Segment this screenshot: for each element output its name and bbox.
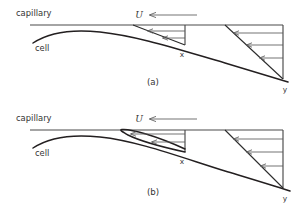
freestream-label-a: U	[135, 9, 143, 20]
panel-b: U capillary cell x y (b)	[0, 105, 306, 215]
freestream-arrow-b	[149, 116, 197, 121]
figure-container: U capillary cell x y (a)	[0, 0, 306, 215]
panel-caption-a: (a)	[147, 77, 159, 87]
station-x-label-b: x	[180, 157, 185, 166]
panel-a: U capillary cell x y (a)	[0, 0, 306, 105]
freestream-arrow-a	[149, 12, 197, 17]
panel-caption-b: (b)	[147, 187, 159, 197]
capillary-label-b: capillary	[16, 113, 52, 123]
capillary-label-a: capillary	[16, 8, 52, 18]
profile-arrows-x-a	[147, 29, 185, 40]
freestream-label-b: U	[135, 113, 143, 124]
station-y-label-a: y	[283, 85, 288, 94]
cell-surface-curve-a	[33, 31, 288, 82]
cell-surface-curve-b	[33, 136, 290, 191]
station-y-label-b: y	[283, 194, 288, 203]
station-x-label-a: x	[180, 50, 185, 59]
cell-label-b: cell	[35, 148, 49, 158]
cell-label-a: cell	[35, 43, 49, 53]
profile-envelope-x-a	[133, 25, 185, 45]
